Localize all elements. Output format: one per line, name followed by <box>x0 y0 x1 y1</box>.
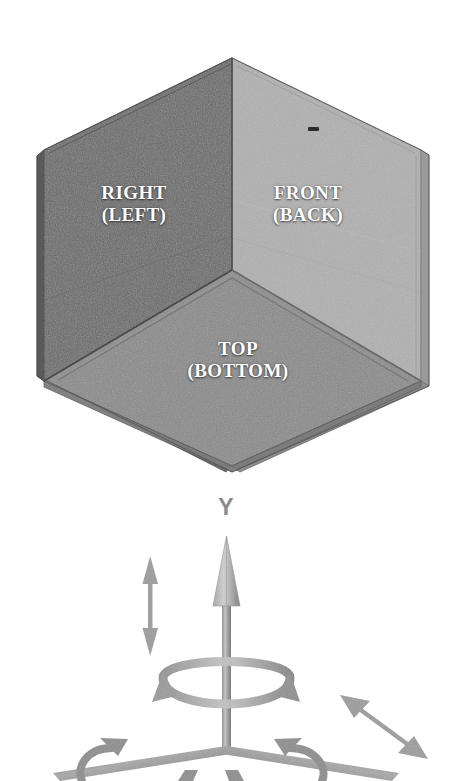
front-face-dash-icon <box>308 127 319 131</box>
figure-canvas: RIGHT (LEFT) FRONT (BACK) TOP (BOTTOM) <box>0 0 451 781</box>
y-translation-arrow <box>143 556 159 656</box>
center-rotation-arrow-right <box>225 770 244 781</box>
center-rotation-arrow-left <box>178 770 198 781</box>
open-cube-diagram <box>0 0 451 500</box>
y-axis-label: Y <box>206 496 246 519</box>
axis-gizmo-diagram <box>0 480 451 781</box>
y-axis-arrow <box>213 536 240 750</box>
z-translation-arrow <box>340 695 428 759</box>
